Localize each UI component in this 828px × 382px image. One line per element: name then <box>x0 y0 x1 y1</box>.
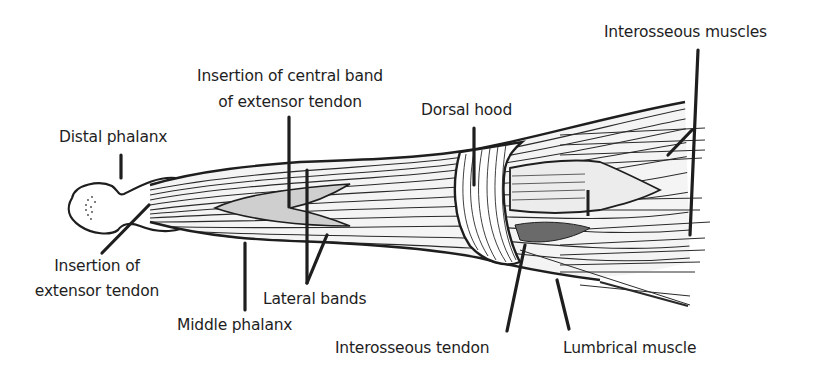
label-distal-phalanx: Distal phalanx <box>59 124 167 150</box>
label-lateral-bands: Lateral bands <box>263 286 366 312</box>
label-insertion-extensor-line1: Insertion of <box>22 253 172 279</box>
label-lumbrical-muscle: Lumbrical muscle <box>563 335 696 361</box>
label-insertion-extensor-line2: extensor tendon <box>22 278 172 304</box>
label-interosseous-tendon: Interosseous tendon <box>335 335 489 361</box>
label-central-band-line2: of extensor tendon <box>170 89 410 115</box>
leader-lumbrical <box>557 280 569 329</box>
finger-extensor-anatomy-diagram: Interosseous muscles Insertion of centra… <box>0 0 828 382</box>
finger-illustration <box>0 0 828 382</box>
label-interosseous-muscles: Interosseous muscles <box>604 19 767 45</box>
label-central-band-line1: Insertion of central band <box>170 63 410 89</box>
leader-interosseous-muscles <box>690 50 698 235</box>
label-dorsal-hood: Dorsal hood <box>421 97 512 123</box>
label-middle-phalanx: Middle phalanx <box>177 312 292 338</box>
